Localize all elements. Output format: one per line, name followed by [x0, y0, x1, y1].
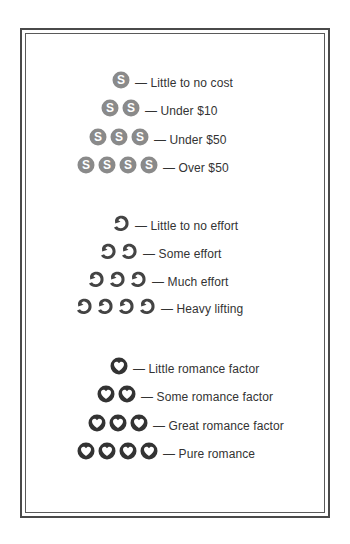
effort-icons — [99, 242, 141, 260]
romance-label: — Some romance factor — [141, 390, 273, 404]
heart-circle-icon — [98, 442, 116, 460]
svg-text:S: S — [94, 130, 102, 144]
dollar-coin-icon: S — [98, 156, 116, 174]
romance-row-1: — Little romance factor — [110, 356, 259, 376]
heart-circle-icon — [110, 357, 128, 375]
heart-circle-icon — [119, 442, 137, 460]
romance-icons — [88, 414, 151, 432]
effort-label: — Some effort — [143, 247, 221, 261]
dollar-coin-icon: S — [122, 99, 140, 117]
dollar-coin-icon: S — [140, 156, 158, 174]
cost-row-2: S S — Under $10 — [101, 98, 217, 118]
svg-text:S: S — [127, 101, 135, 115]
cost-label: — Little to no cost — [135, 76, 233, 90]
cost-label: — Under $10 — [145, 104, 217, 118]
svg-text:S: S — [106, 101, 114, 115]
svg-text:S: S — [117, 73, 125, 87]
romance-label: — Pure romance — [163, 447, 255, 461]
heart-circle-icon — [118, 385, 136, 403]
romance-row-4: — Pure romance — [77, 441, 255, 461]
heart-circle-icon — [97, 385, 115, 403]
svg-text:S: S — [103, 158, 111, 172]
heart-circle-icon — [109, 414, 127, 432]
cost-icons: S — [112, 71, 133, 89]
heart-circle-icon — [88, 414, 106, 432]
flexed-arm-icon — [138, 297, 156, 315]
flexed-arm-icon — [108, 270, 126, 288]
effort-icons — [75, 297, 159, 315]
svg-text:S: S — [145, 158, 153, 172]
effort-row-3: — Much effort — [87, 269, 228, 289]
cost-row-3: S S S — Under $50 — [89, 127, 226, 147]
effort-label: — Little to no effort — [135, 219, 238, 233]
cost-label: — Under $50 — [154, 133, 226, 147]
effort-label: — Much effort — [152, 275, 228, 289]
romance-icons — [77, 442, 161, 460]
dollar-coin-icon: S — [110, 128, 128, 146]
flexed-arm-icon — [99, 242, 117, 260]
heart-circle-icon — [140, 442, 158, 460]
flexed-arm-icon — [75, 297, 93, 315]
effort-label: — Heavy lifting — [161, 302, 243, 316]
effort-row-1: — Little to no effort — [112, 213, 238, 233]
effort-icons — [87, 270, 150, 288]
dollar-coin-icon: S — [101, 99, 119, 117]
heart-circle-icon — [77, 442, 95, 460]
effort-icons — [112, 214, 133, 232]
dollar-coin-icon: S — [77, 156, 95, 174]
cost-icons: S S S S — [77, 156, 161, 174]
svg-text:S: S — [136, 130, 144, 144]
heart-circle-icon — [130, 414, 148, 432]
flexed-arm-icon — [96, 297, 114, 315]
svg-text:S: S — [124, 158, 132, 172]
romance-row-3: — Great romance factor — [88, 413, 284, 433]
cost-row-1: S — Little to no cost — [112, 70, 233, 90]
romance-row-2: — Some romance factor — [97, 384, 273, 404]
romance-label: — Great romance factor — [153, 419, 284, 433]
svg-text:S: S — [115, 130, 123, 144]
dollar-coin-icon: S — [89, 128, 107, 146]
effort-row-2: — Some effort — [99, 241, 221, 261]
svg-text:S: S — [82, 158, 90, 172]
flexed-arm-icon — [120, 242, 138, 260]
cost-icons: S S — [101, 99, 143, 117]
dollar-coin-icon: S — [131, 128, 149, 146]
flexed-arm-icon — [87, 270, 105, 288]
dollar-coin-icon: S — [112, 71, 130, 89]
effort-row-4: — Heavy lifting — [75, 296, 243, 316]
flexed-arm-icon — [117, 297, 135, 315]
cost-row-4: S S S S — Over $50 — [77, 155, 229, 175]
romance-label: — Little romance factor — [133, 362, 259, 376]
flexed-arm-icon — [129, 270, 147, 288]
dollar-coin-icon: S — [119, 156, 137, 174]
cost-label: — Over $50 — [163, 161, 229, 175]
flexed-arm-icon — [112, 214, 130, 232]
cost-icons: S S S — [89, 128, 152, 146]
romance-icons — [97, 385, 139, 403]
romance-icons — [110, 357, 131, 375]
